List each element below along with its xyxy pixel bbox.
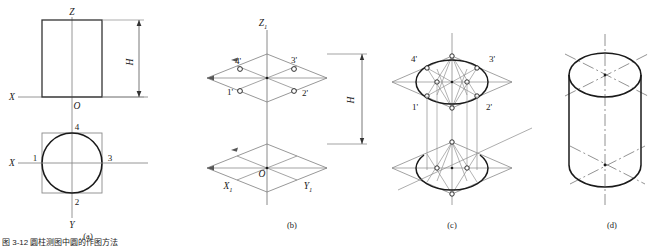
panel-a: Z X O H X Y 4 2 1 3 (a) bbox=[8, 7, 148, 241]
panel-b-label-Y1: Y1 bbox=[304, 181, 313, 193]
panel-b-label-X1: X1 bbox=[222, 181, 232, 193]
panel-b-label-O: O bbox=[259, 169, 266, 179]
panel-b-label-Z1: Z1 bbox=[259, 18, 268, 30]
panel-c-upper-centre-node-bottom bbox=[450, 106, 454, 110]
panel-b-point-4p bbox=[238, 67, 243, 72]
panel-b-dim-arrow-top bbox=[360, 54, 364, 60]
panel-c-point-label-3p: 3' bbox=[489, 54, 496, 64]
panel-b-caption: (b) bbox=[287, 220, 297, 230]
panel-a-point-label-2: 2 bbox=[75, 197, 80, 207]
panel-a-label-X-upper: X bbox=[8, 92, 16, 102]
panel-b-upper-centre-dot bbox=[266, 77, 269, 80]
panel-a-label-H: H bbox=[125, 57, 135, 66]
panel-c-oblique-construction-line bbox=[398, 128, 532, 190]
panel-c-lower-centre-dot bbox=[451, 167, 454, 170]
panel-b: Z1 X1 Y1 O H 4' 3' 1' 2' (b) bbox=[207, 18, 367, 230]
panel-d-top-centre-dot bbox=[604, 74, 607, 77]
panel-a-point-label-3: 3 bbox=[108, 153, 113, 163]
figure-caption: 图 3-12 圆柱测图中圆的作图方法 bbox=[2, 237, 118, 246]
panel-c-lower-constr-1 bbox=[427, 142, 452, 182]
panel-c-lower-node-bottom bbox=[450, 192, 454, 196]
panel-c-lower-node-top bbox=[450, 140, 454, 144]
panel-d-bottom-centre-dot bbox=[604, 164, 607, 167]
panel-b-point-label-4p: 4' bbox=[235, 56, 242, 66]
panel-c-lower-node-left bbox=[435, 166, 439, 170]
panel-c-point-label-2p: 2' bbox=[486, 102, 493, 112]
panel-c: 4' 3' 1' 2' (c) bbox=[392, 33, 532, 230]
panel-b-point-label-3p: 3' bbox=[291, 55, 298, 65]
panel-a-point-label-4: 4 bbox=[75, 122, 80, 132]
panel-c-lower-node-right bbox=[465, 166, 469, 170]
panel-b-point-1p bbox=[238, 89, 243, 94]
panel-d: (d) bbox=[565, 34, 648, 230]
panel-a-point-label-1: 1 bbox=[33, 153, 38, 163]
panel-a-dim-arrow-bottom bbox=[137, 91, 142, 97]
panel-b-label-H: H bbox=[346, 95, 356, 104]
panel-c-point-label-4p: 4' bbox=[411, 54, 418, 64]
panel-b-dim-arrow-bottom bbox=[360, 138, 364, 144]
panel-c-upper-centre-dot bbox=[451, 81, 454, 84]
panel-a-label-Y: Y bbox=[69, 220, 76, 230]
figure-root: Z X O H X Y 4 2 1 3 (a) bbox=[0, 0, 649, 246]
panel-c-lower-constr-2 bbox=[452, 142, 477, 182]
panel-a-label-Z: Z bbox=[69, 7, 75, 17]
panel-b-point-label-1p: 1' bbox=[227, 87, 234, 97]
panel-b-lower-tick-nw bbox=[231, 147, 238, 151]
panel-b-point-label-2p: 2' bbox=[302, 88, 309, 98]
panel-c-upper-centre-node-top bbox=[450, 54, 454, 58]
panel-c-point-label-1p: 1' bbox=[412, 102, 419, 112]
panel-b-point-2p bbox=[292, 89, 297, 94]
panel-c-upper-pt-4p bbox=[425, 66, 429, 70]
technical-drawing-svg: Z X O H X Y 4 2 1 3 (a) bbox=[0, 0, 649, 246]
panel-a-label-O: O bbox=[74, 101, 81, 111]
panel-a-dim-arrow-top bbox=[137, 20, 142, 26]
panel-b-point-3p bbox=[292, 67, 297, 72]
panel-c-caption: (c) bbox=[447, 220, 457, 230]
panel-d-caption: (d) bbox=[607, 220, 617, 230]
panel-c-upper-pt-3p bbox=[475, 66, 479, 70]
panel-a-label-X-lower: X bbox=[8, 158, 16, 168]
panel-b-lower-centre-dot bbox=[266, 167, 269, 170]
